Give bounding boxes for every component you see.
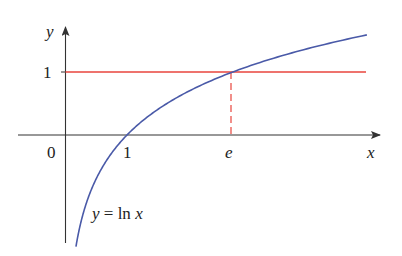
ln-graph: y 1 0 1 e x y = ln x xyxy=(0,0,402,256)
x-axis-label: x xyxy=(366,143,375,162)
y-tick-label-1: 1 xyxy=(43,63,52,82)
y-axis-label: y xyxy=(44,22,54,41)
curve-label: y = ln x xyxy=(90,204,143,223)
x-tick-label-1: 1 xyxy=(123,143,132,162)
x-tick-label-e: e xyxy=(225,143,233,162)
origin-label: 0 xyxy=(47,143,56,162)
